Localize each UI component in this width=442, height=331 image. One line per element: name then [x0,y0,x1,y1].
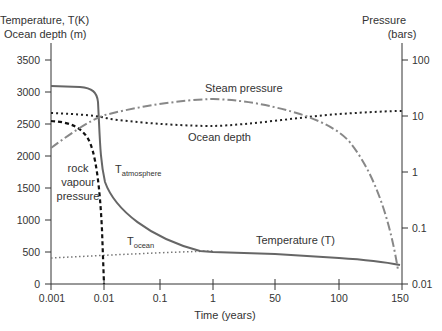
left-axis-title-line2: Ocean depth (m) [4,28,87,40]
svg-text:100: 100 [330,292,348,304]
series-t-ocean [51,251,213,258]
svg-text:10: 10 [412,110,424,122]
annotation-rock-line1: rock [68,162,89,174]
svg-text:1500: 1500 [17,182,41,194]
svg-text:3000: 3000 [17,86,41,98]
svg-text:0.01: 0.01 [412,278,433,290]
svg-text:3500: 3500 [17,54,41,66]
svg-text:0.1: 0.1 [412,222,427,234]
x-tick-labels: 0.001 0.01 0.1 1 50 100 150 [39,292,409,304]
left-axis-title-line1: Temperature, T(K) [0,14,89,26]
annotation-t-atmosphere: Tatmosphere [115,163,161,178]
right-axis-title-line1: Pressure [362,14,406,26]
series-ocean-depth [51,111,402,126]
annotation-temperature: Temperature (T) [256,234,335,246]
svg-text:1000: 1000 [17,214,41,226]
svg-text:1: 1 [412,166,418,178]
svg-text:0.1: 0.1 [153,292,168,304]
svg-text:1: 1 [210,292,216,304]
svg-text:0: 0 [34,278,40,290]
svg-text:100: 100 [412,54,430,66]
annotation-rock-line2: vapour [61,176,95,188]
right-tick-labels: 0.01 0.1 1 10 100 [412,54,433,290]
annotation-steam-pressure: Steam pressure [205,82,283,94]
annotation-ocean-depth: Ocean depth [188,131,251,143]
chart: Temperature, T(K) Ocean depth (m) Pressu… [0,0,442,331]
annotation-t-ocean: Tocean [127,235,154,250]
svg-text:0.01: 0.01 [94,292,115,304]
svg-text:50: 50 [269,292,281,304]
series-rock-vapour [51,121,104,284]
svg-text:0.001: 0.001 [39,292,65,304]
svg-text:150: 150 [391,292,409,304]
svg-text:2000: 2000 [17,150,41,162]
right-axis-title-line2: (bars) [388,28,417,40]
svg-text:500: 500 [22,246,40,258]
annotation-rock-line3: pressure [57,190,100,202]
x-axis-title: Time (years) [194,309,255,321]
left-tick-labels: 0 500 1000 1500 2000 2500 3000 3500 [17,54,41,290]
svg-text:2500: 2500 [17,118,41,130]
